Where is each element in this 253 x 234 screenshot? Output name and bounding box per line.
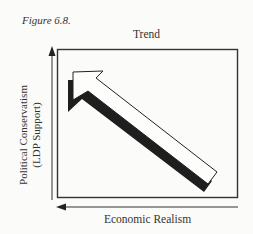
x-axis-arrow-icon	[56, 204, 238, 211]
y-axis-arrow-icon	[49, 46, 56, 200]
trend-arrow-icon	[68, 71, 217, 192]
trend-diagram	[0, 0, 253, 234]
x-axis-label: Economic Realism	[57, 213, 238, 225]
